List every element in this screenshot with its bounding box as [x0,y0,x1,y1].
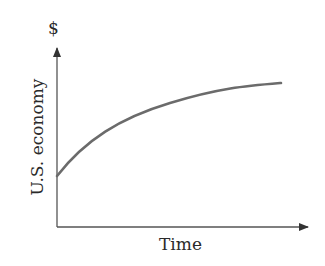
economy-curve [57,83,281,176]
x-axis-label: Time [159,234,202,254]
chart-plot [0,0,325,266]
y-axis-label: U.S. economy [27,79,47,196]
y-axis-unit-label: $ [48,18,59,38]
economy-growth-chart: $ U.S. economy Time [0,0,325,266]
